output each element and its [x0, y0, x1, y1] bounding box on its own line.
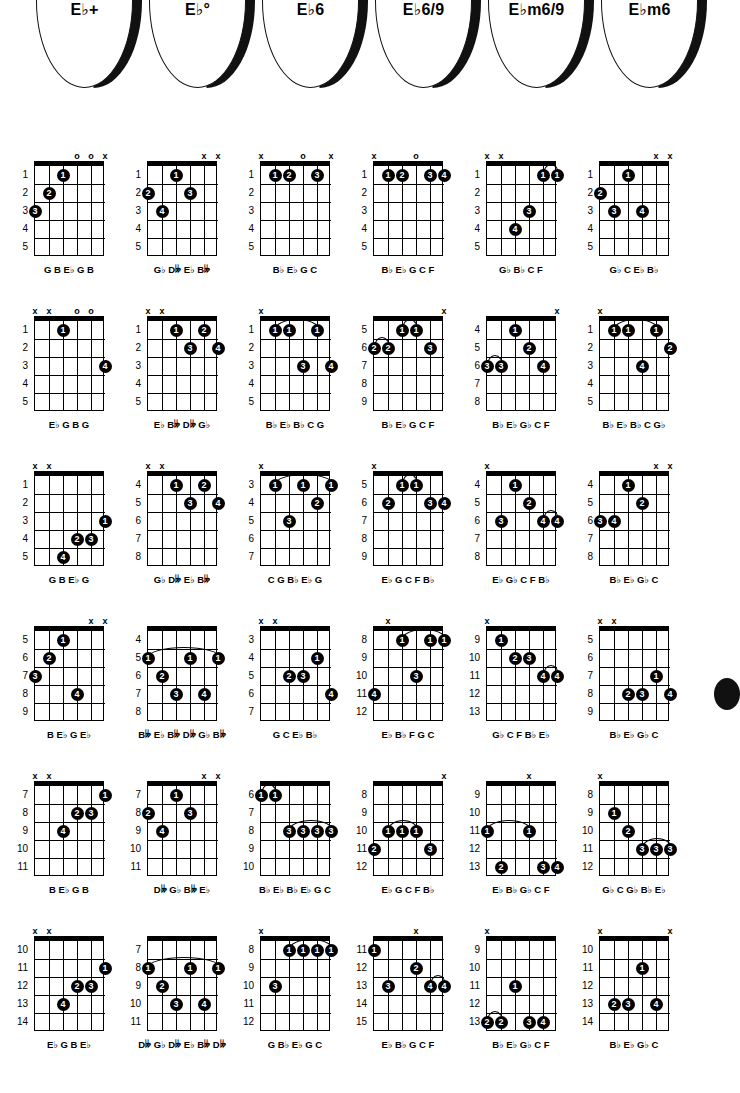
- chord-diagram[interactable]: 91011121312234xB♭ E♭ G♭ C F: [452, 925, 573, 1077]
- chord-diagram[interactable]: 12345123xoxB♭ E♭ G C: [226, 150, 347, 302]
- fret-number: 13: [466, 707, 480, 717]
- fret-line: [600, 530, 670, 531]
- finger-dot: 4: [551, 670, 564, 683]
- chord-diagram[interactable]: 111213141512344xE♭ B♭ G C F: [339, 925, 460, 1077]
- fretboard-wrapper: 567891234xxB♭ E♭ G♭ C: [599, 631, 669, 721]
- fretboard-wrapper: 8910111212333xG♭ C G♭ B♭ E♭: [599, 786, 669, 876]
- chord-diagram[interactable]: 91011121311234xE♭ B♭ G♭ C F: [452, 770, 573, 922]
- fret-line: [374, 840, 444, 841]
- chord-diagram[interactable]: 567891234xxB♭ E♭ G♭ C: [565, 615, 686, 767]
- fret-number: 11: [353, 689, 367, 699]
- muted-string-marker: x: [256, 617, 266, 626]
- nut-bar: [486, 471, 556, 476]
- chord-row: 123451234xxG B E♭ G456781234xxG♭ D𝄫 E♭ B…: [0, 460, 730, 615]
- chord-diagram[interactable]: 345671234xxG C E♭ B♭: [226, 615, 347, 767]
- chord-diagram[interactable]: 78910111234xxD𝄫 G♭ B𝄫 E♭: [113, 770, 234, 922]
- string-line: [204, 786, 205, 876]
- finger-dot: 1: [622, 479, 635, 492]
- finger-dot: 4: [438, 980, 451, 993]
- chord-diagram[interactable]: 678910113333B♭ E♭ B♭ E♭ G C: [226, 770, 347, 922]
- chord-diagram[interactable]: 123451234xxG♭ D𝄫 E♭ B𝄫: [113, 150, 234, 302]
- string-line: [529, 476, 530, 566]
- chord-diagram[interactable]: 4567812334xB♭ E♭ G♭ C F: [452, 305, 573, 457]
- fret-line: [487, 804, 557, 805]
- chord-diagram[interactable]: 123451234xxG♭ C E♭ B♭: [565, 150, 686, 302]
- chord-diagram[interactable]: 123451234xxG B E♭ G: [0, 460, 121, 612]
- finger-dot: 3: [85, 807, 98, 820]
- chord-diagram[interactable]: 45678111234B𝄫 E♭ B𝄫 D𝄫 G♭ B𝄫: [113, 615, 234, 767]
- string-line: [204, 166, 205, 256]
- chord-diagram[interactable]: 12345123ooxG B E♭ G B: [0, 150, 121, 302]
- fret-line: [487, 840, 557, 841]
- fret-line: [35, 995, 105, 996]
- chord-diagram[interactable]: 8910111211113xG B♭ E♭ G C: [226, 925, 347, 1077]
- fret-number: 4: [579, 379, 593, 389]
- chord-diagram[interactable]: 1234511124xB♭ E♭ B♭ C G♭: [565, 305, 686, 457]
- string-line: [416, 941, 417, 1031]
- fret-number: 5: [127, 397, 141, 407]
- chord-diagram[interactable]: 123451234xxE♭ B𝄫 D𝄫 G♭: [113, 305, 234, 457]
- chord-diagram[interactable]: 78910111234xxB E♭ G B: [0, 770, 121, 922]
- chord-diagram[interactable]: 10111213141234xxE♭ G B E♭: [0, 925, 121, 1077]
- pick-eb6[interactable]: E♭6: [262, 0, 368, 88]
- chord-diagram[interactable]: 91011121312344xG♭ C F B♭ E♭: [452, 615, 573, 767]
- note-names: E♭ B𝄫 D𝄫 G♭: [131, 419, 233, 431]
- chord-diagram[interactable]: 456781234xxB♭ E♭ G♭ C: [565, 460, 686, 612]
- pick-eb-aug[interactable]: E♭+: [36, 0, 142, 88]
- muted-string-marker: x: [270, 617, 280, 626]
- chord-diagram[interactable]: 3456711123xC G B♭ E♭ G: [226, 460, 347, 612]
- pick-eb-dim[interactable]: E♭°: [149, 0, 255, 88]
- chord-diagram[interactable]: 567891234xxB E♭ G E♭: [0, 615, 121, 767]
- chord-diagram[interactable]: 1234511134xB♭ E♭ B♭ C G: [226, 305, 347, 457]
- fret-number: 8: [240, 826, 254, 836]
- finger-dot: 1: [297, 479, 310, 492]
- fret-line: [261, 649, 331, 650]
- fret-number: 3: [579, 361, 593, 371]
- finger-dot: 2: [523, 497, 536, 510]
- fretboard: 12344x: [486, 476, 556, 566]
- note-names: B♭ E♭ B♭ C G: [244, 419, 346, 430]
- nut-bar: [486, 316, 556, 321]
- string-line: [656, 786, 657, 876]
- chord-diagram[interactable]: 1234514xxooE♭ G B G: [0, 305, 121, 457]
- chord-diagram[interactable]: 456781234xxG♭ D𝄫 E♭ B𝄫: [113, 460, 234, 612]
- chord-diagram[interactable]: 4567812344xE♭ G♭ C F B♭: [452, 460, 573, 612]
- muted-string-marker: x: [383, 617, 393, 626]
- chord-diagram[interactable]: 5678911223xB♭ E♭ G C F: [339, 305, 460, 457]
- nut-bar: [373, 781, 443, 786]
- fret-line: [600, 375, 670, 376]
- finger-dot: 1: [396, 324, 409, 337]
- muted-string-marker: x: [199, 152, 209, 161]
- note-names: G♭ C E♭ B♭: [583, 264, 685, 275]
- string-line: [388, 476, 389, 566]
- fret-line: [35, 184, 105, 185]
- pick-ebm6-9[interactable]: E♭m6/9: [488, 0, 594, 88]
- pick-eb6-9[interactable]: E♭6/9: [375, 0, 481, 88]
- string-line: [656, 166, 657, 256]
- muted-string-marker: x: [157, 307, 167, 316]
- muted-string-marker: x: [199, 772, 209, 781]
- chord-diagram[interactable]: 123451134xxG♭ B♭ C F: [452, 150, 573, 302]
- chord-diagram[interactable]: 123451234xoB♭ E♭ G C F: [339, 150, 460, 302]
- finger-dot: 1: [212, 962, 225, 975]
- muted-string-marker: x: [44, 927, 54, 936]
- chord-diagram[interactable]: 8910111211134xE♭ B♭ F G C: [339, 615, 460, 767]
- chord-diagram[interactable]: 7891011111234D𝄫 G♭ D𝄫 E♭ B𝄫 D𝄫: [113, 925, 234, 1077]
- pick-ebm6[interactable]: E♭m6: [601, 0, 707, 88]
- fret-number: 11: [353, 945, 367, 955]
- fret-number: 6: [240, 689, 254, 699]
- chord-diagram[interactable]: 8910111211123xE♭ G C F B♭: [339, 770, 460, 922]
- fretboard: 1234xx: [147, 321, 217, 411]
- finger-dot: 4: [198, 688, 211, 701]
- fret-number: 14: [579, 1017, 593, 1027]
- string-line: [388, 321, 389, 411]
- chord-diagram[interactable]: 5678911234xE♭ G C F B♭: [339, 460, 460, 612]
- fretboard-wrapper: 91011121312344xG♭ C F B♭ E♭: [486, 631, 556, 721]
- finger-dot: 1: [57, 324, 70, 337]
- fret-number: 2: [240, 343, 254, 353]
- fret-number: 5: [14, 552, 28, 562]
- nut-bar: [147, 161, 217, 166]
- chord-diagram[interactable]: 10111213141234xxB♭ E♭ G♭ C: [565, 925, 686, 1077]
- chord-diagram[interactable]: 8910111212333xG♭ C G♭ B♭ E♭: [565, 770, 686, 922]
- finger-dot: 1: [622, 324, 635, 337]
